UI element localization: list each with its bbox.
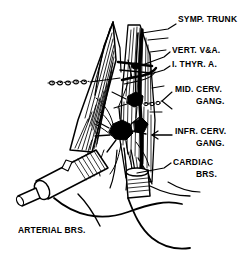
label-cardiac-brs-second-line: BRS. xyxy=(196,169,217,180)
label-symp-trunk: SYMP. TRUNK xyxy=(178,14,237,25)
anatomical-figure: SYMP. TRUNK VERT. V&A. I. THYR. A. MID. … xyxy=(0,0,247,264)
label-infr-cerv-gang-second-line: GANG. xyxy=(196,138,225,149)
label-i-thyr-a: I. THYR. A. xyxy=(172,59,217,70)
label-mid-cerv-gang: MID. CERV. xyxy=(175,84,222,95)
label-cardiac-brs: CARDIAC xyxy=(173,157,213,168)
label-mid-cerv-gang-second-line: GANG. xyxy=(196,96,225,107)
label-vert-v-a: VERT. V&A. xyxy=(172,45,220,56)
label-infr-cerv-gang: INFR. CERV. xyxy=(175,126,226,137)
label-arterial-brs: ARTERIAL BRS. xyxy=(18,225,86,236)
